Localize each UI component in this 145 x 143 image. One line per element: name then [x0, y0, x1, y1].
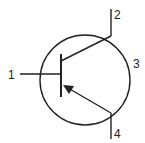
label-terminal-1: 1 [8, 68, 15, 82]
emitter-diagonal [68, 88, 111, 113]
emitter-arrow-icon [63, 85, 74, 94]
transistor-diagram: 1 2 3 4 [0, 0, 145, 143]
collector-diagonal [61, 36, 111, 61]
label-terminal-3: 3 [133, 57, 140, 71]
label-terminal-2: 2 [114, 8, 121, 22]
label-terminal-4: 4 [114, 127, 121, 141]
